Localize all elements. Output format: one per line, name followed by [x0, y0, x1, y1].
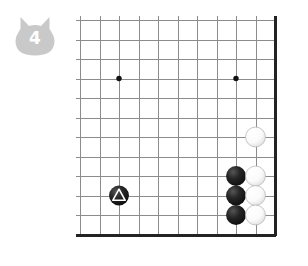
black-stone-marked[interactable] — [109, 186, 129, 206]
move-number-badge: 4 — [12, 14, 58, 58]
star-point — [116, 76, 121, 81]
black-stone-body — [226, 166, 246, 186]
black-stone[interactable] — [226, 166, 246, 186]
star-point — [233, 76, 238, 81]
go-board[interactable] — [76, 16, 298, 250]
white-stone-body — [246, 205, 266, 225]
white-stone-body — [246, 186, 266, 206]
white-stone[interactable] — [246, 205, 266, 225]
white-stone[interactable] — [246, 186, 266, 206]
black-stone[interactable] — [226, 186, 246, 206]
black-stone-body — [226, 205, 246, 225]
white-stone-body — [246, 166, 266, 186]
white-stone[interactable] — [246, 166, 266, 186]
move-number-label: 4 — [12, 14, 58, 58]
white-stone-body — [246, 127, 266, 147]
black-stone[interactable] — [226, 205, 246, 225]
black-stone-body — [226, 186, 246, 206]
go-board-canvas[interactable] — [76, 16, 298, 250]
white-stone[interactable] — [246, 127, 266, 147]
board-gridlines — [76, 16, 276, 236]
